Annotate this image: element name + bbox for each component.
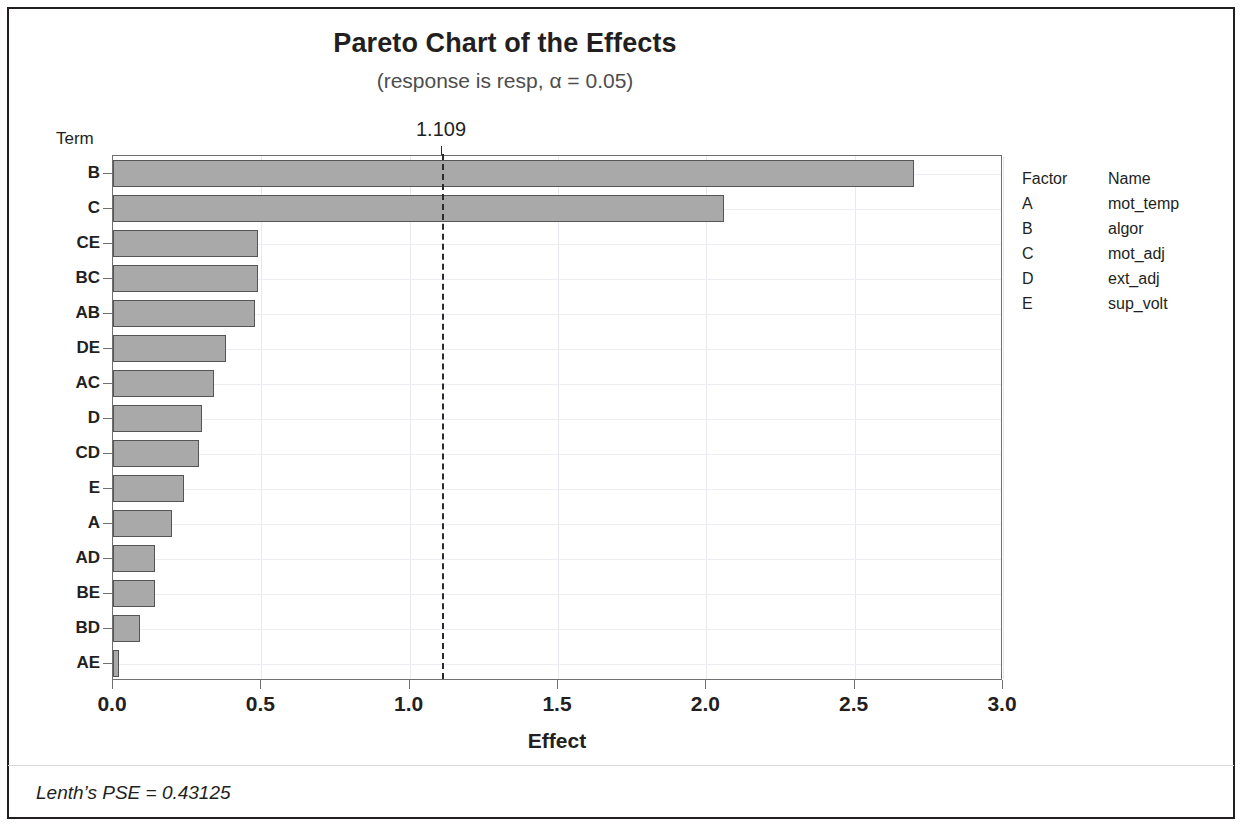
y-tick xyxy=(103,208,112,209)
gridline-vertical xyxy=(1003,156,1004,679)
legend-row: Balgor xyxy=(1022,220,1179,245)
legend-name-c: mot_adj xyxy=(1108,245,1179,270)
legend-name-b: algor xyxy=(1108,220,1179,245)
reference-line xyxy=(442,154,444,679)
legend-row: Dext_adj xyxy=(1022,270,1179,295)
legend-factor-a: A xyxy=(1022,195,1108,220)
legend-body: Amot_tempBalgorCmot_adjDext_adjEsup_volt xyxy=(1022,195,1179,320)
y-tick-label-ae: AE xyxy=(40,653,100,673)
legend-factor-c: C xyxy=(1022,245,1108,270)
bar-d xyxy=(113,405,202,432)
legend-name-e: sup_volt xyxy=(1108,295,1179,320)
bar-e xyxy=(113,475,184,502)
y-tick xyxy=(103,278,112,279)
gridline-horizontal xyxy=(113,419,1001,420)
y-tick xyxy=(103,523,112,524)
bar-de xyxy=(113,335,226,362)
bar-ab xyxy=(113,300,255,327)
legend-row: Cmot_adj xyxy=(1022,245,1179,270)
y-tick-label-e: E xyxy=(40,478,100,498)
factor-legend: Factor Name Amot_tempBalgorCmot_adjDext_… xyxy=(1022,170,1179,320)
footnote-divider xyxy=(8,765,1234,766)
x-tick xyxy=(260,680,261,689)
y-tick-label-ac: AC xyxy=(40,373,100,393)
y-tick-label-bc: BC xyxy=(40,268,100,288)
gridline-horizontal xyxy=(113,559,1001,560)
bar-c xyxy=(113,195,724,222)
legend-factor-b: B xyxy=(1022,220,1108,245)
bar-bc xyxy=(113,265,258,292)
reference-line-label: 1.109 xyxy=(416,118,466,141)
x-tick xyxy=(557,680,558,689)
y-tick-label-bd: BD xyxy=(40,618,100,638)
x-tick-label: 2.5 xyxy=(839,692,868,716)
y-tick-label-ab: AB xyxy=(40,303,100,323)
bar-ae xyxy=(113,650,119,677)
gridline-horizontal xyxy=(113,384,1001,385)
legend-header-row: Factor Name xyxy=(1022,170,1179,195)
y-tick-label-c: C xyxy=(40,198,100,218)
x-tick xyxy=(854,680,855,689)
y-tick xyxy=(103,173,112,174)
x-tick-label: 2.0 xyxy=(691,692,720,716)
legend-factor-d: D xyxy=(1022,270,1108,295)
reference-line-tick xyxy=(441,146,442,155)
x-tick-label: 1.0 xyxy=(394,692,423,716)
bar-a xyxy=(113,510,172,537)
x-tick xyxy=(112,680,113,689)
y-tick xyxy=(103,593,112,594)
y-tick-label-d: D xyxy=(40,408,100,428)
x-tick-label: 0.0 xyxy=(97,692,126,716)
plot-inner xyxy=(113,156,1001,679)
bar-cd xyxy=(113,440,199,467)
bar-b xyxy=(113,160,914,187)
y-tick-label-ce: CE xyxy=(40,233,100,253)
y-tick-label-be: BE xyxy=(40,583,100,603)
gridline-vertical xyxy=(558,156,559,679)
y-tick xyxy=(103,558,112,559)
legend-name-a: mot_temp xyxy=(1108,195,1179,220)
gridline-horizontal xyxy=(113,489,1001,490)
x-tick xyxy=(409,680,410,689)
gridline-horizontal xyxy=(113,349,1001,350)
y-tick xyxy=(103,418,112,419)
gridline-horizontal xyxy=(113,594,1001,595)
gridline-horizontal xyxy=(113,454,1001,455)
pareto-chart-page: Pareto Chart of the Effects (response is… xyxy=(0,0,1244,828)
y-tick-label-de: DE xyxy=(40,338,100,358)
y-tick-label-ad: AD xyxy=(40,548,100,568)
y-tick xyxy=(103,383,112,384)
gridline-horizontal xyxy=(113,629,1001,630)
y-axis-title: Term xyxy=(56,129,94,149)
bar-ac xyxy=(113,370,214,397)
y-tick-label-cd: CD xyxy=(40,443,100,463)
y-tick xyxy=(103,628,112,629)
y-tick xyxy=(103,348,112,349)
gridline-vertical xyxy=(855,156,856,679)
gridline-horizontal xyxy=(113,524,1001,525)
gridline-vertical xyxy=(706,156,707,679)
factor-legend-table: Factor Name Amot_tempBalgorCmot_adjDext_… xyxy=(1022,170,1179,320)
bar-be xyxy=(113,580,155,607)
y-tick xyxy=(103,488,112,489)
legend-row: Amot_temp xyxy=(1022,195,1179,220)
y-tick xyxy=(103,453,112,454)
legend-row: Esup_volt xyxy=(1022,295,1179,320)
gridline-horizontal xyxy=(113,664,1001,665)
gridline-vertical xyxy=(410,156,411,679)
x-tick-label: 1.5 xyxy=(542,692,571,716)
legend-factor-e: E xyxy=(1022,295,1108,320)
legend-name-d: ext_adj xyxy=(1108,270,1179,295)
x-tick-label: 3.0 xyxy=(987,692,1016,716)
legend-header-factor: Factor xyxy=(1022,170,1108,195)
bar-ce xyxy=(113,230,258,257)
plot-area xyxy=(112,155,1002,680)
lenths-pse-note: Lenth’s PSE = 0.43125 xyxy=(36,782,231,804)
y-tick xyxy=(103,313,112,314)
x-tick xyxy=(705,680,706,689)
chart-subtitle: (response is resp, α = 0.05) xyxy=(0,69,1010,93)
y-tick xyxy=(103,663,112,664)
page-title: Pareto Chart of the Effects xyxy=(0,28,1010,59)
bar-ad xyxy=(113,545,155,572)
y-tick-label-b: B xyxy=(40,163,100,183)
